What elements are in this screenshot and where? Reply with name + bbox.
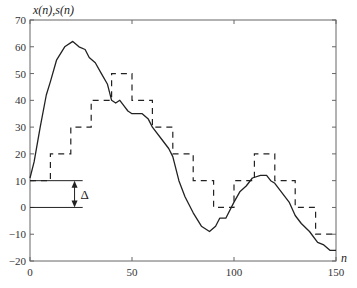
x-tick-label: 150: [328, 266, 345, 278]
arrow-down-icon: [72, 200, 78, 207]
plot-axes: −20−10010203040506070050100150: [9, 14, 345, 278]
arrow-up-icon: [72, 181, 78, 188]
y-tick-label: 60: [15, 41, 27, 53]
y-tick-label: 40: [15, 94, 27, 106]
y-tick-label: −10: [9, 228, 27, 240]
series-x-n-solid: [30, 41, 336, 250]
chart: −20−10010203040506070050100150 Δ x(n),s(…: [0, 0, 357, 288]
y-axis-label: x(n),s(n): [32, 3, 74, 17]
series-s-n-dashed: [30, 74, 336, 235]
delta-annotation: Δ: [30, 181, 89, 208]
x-axis-label: n: [341, 251, 347, 265]
y-tick-label: −20: [9, 255, 27, 267]
y-tick-label: 70: [15, 14, 27, 26]
plot-series: [30, 41, 336, 250]
y-tick-label: 0: [21, 201, 27, 213]
plot-frame: [30, 20, 336, 261]
x-tick-label: 100: [226, 266, 243, 278]
y-tick-label: 30: [15, 121, 27, 133]
y-tick-label: 20: [15, 148, 27, 160]
y-tick-label: 50: [15, 68, 27, 80]
delta-label: Δ: [81, 187, 89, 202]
x-tick-label: 50: [127, 266, 139, 278]
x-tick-label: 0: [27, 266, 33, 278]
y-tick-label: 10: [15, 175, 27, 187]
